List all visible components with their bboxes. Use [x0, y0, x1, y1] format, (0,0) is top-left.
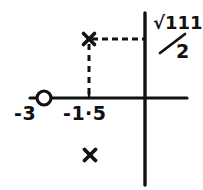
y-intercept-denominator-label: 2 — [176, 42, 189, 61]
axis-of-symmetry-label: -1·5 — [63, 104, 107, 123]
open-circle-root-marker — [37, 91, 51, 105]
lower-cross-marker — [85, 150, 96, 161]
graph-sketch-figure: -3 -1·5 √111 2 — [0, 0, 203, 190]
x-axis-root-label: -3 — [14, 104, 36, 123]
y-intercept-numerator-label: √111 — [153, 14, 203, 32]
